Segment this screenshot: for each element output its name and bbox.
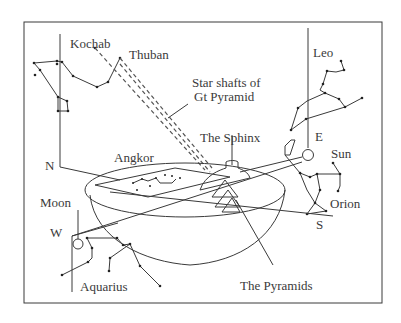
label-south: S xyxy=(316,217,323,232)
sky-diagram: Kochab Thuban Star shafts of Gt Pyramid … xyxy=(0,0,401,323)
label-star-shafts-line2: Gt Pyramid xyxy=(194,89,255,104)
label-the-sphinx: The Sphinx xyxy=(200,130,261,145)
diagram-frame xyxy=(24,22,382,303)
leo-constellation xyxy=(290,60,364,132)
label-kochab: Kochab xyxy=(70,36,110,51)
label-angkor: Angkor xyxy=(114,150,154,165)
label-orion: Orion xyxy=(330,196,361,211)
sphinx-and-pyramids xyxy=(200,135,273,265)
earth-hemisphere xyxy=(85,163,285,265)
label-north: N xyxy=(45,158,55,173)
draco-ursa-minor-constellation xyxy=(33,47,122,113)
label-leo: Leo xyxy=(313,45,333,60)
label-the-pyramids: The Pyramids xyxy=(240,278,313,293)
north-axis xyxy=(60,34,120,180)
label-moon: Moon xyxy=(40,195,72,210)
moon-marker xyxy=(73,239,83,249)
star-shafts-pointer xyxy=(168,104,188,118)
label-sun: Sun xyxy=(331,146,352,161)
label-thuban: Thuban xyxy=(129,47,169,62)
label-east: E xyxy=(315,129,323,144)
label-star-shafts-line1: Star shafts of xyxy=(192,75,261,90)
label-aquarius: Aquarius xyxy=(80,279,128,294)
label-west: W xyxy=(50,225,63,240)
